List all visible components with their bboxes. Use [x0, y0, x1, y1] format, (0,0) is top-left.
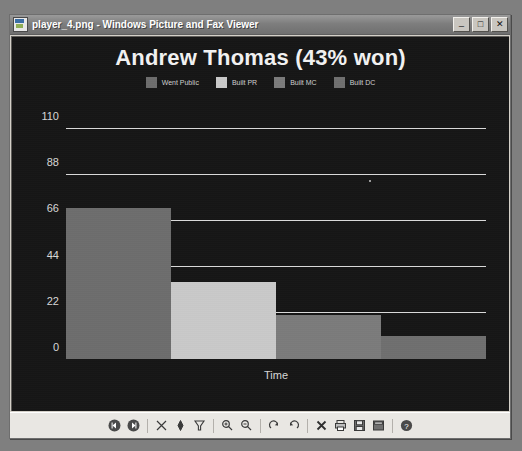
legend-swatch: [216, 77, 227, 88]
close-button[interactable]: ✕: [491, 17, 508, 32]
legend-label: Built DC: [350, 79, 376, 86]
bar: [171, 282, 276, 359]
legend-item: Built DC: [334, 77, 376, 88]
actual-size-button[interactable]: [172, 417, 189, 434]
toolbar-separator: [392, 419, 393, 433]
bar: [276, 315, 381, 359]
y-axis-tick-label: 44: [47, 249, 59, 261]
minimize-icon: _: [454, 18, 469, 31]
maximize-icon: □: [473, 18, 488, 31]
rotate-counterclockwise-button[interactable]: [285, 417, 302, 434]
legend-label: Went Public: [162, 79, 199, 86]
legend-label: Built PR: [232, 79, 257, 86]
toolbar-separator: [147, 419, 148, 433]
resize-grip[interactable]: [497, 425, 509, 437]
legend-item: Went Public: [146, 77, 199, 88]
y-axis-tick-label: 66: [47, 202, 59, 214]
close-icon: ✕: [492, 18, 507, 31]
y-axis-tick-label: 22: [47, 295, 59, 307]
edit-button[interactable]: [370, 417, 387, 434]
viewer-toolbar: ?: [10, 412, 510, 438]
legend-swatch: [146, 77, 157, 88]
chart-legend: Went PublicBuilt PRBuilt MCBuilt DC: [12, 77, 509, 88]
image-viewer-canvas[interactable]: Andrew Thomas (43% won) Went PublicBuilt…: [11, 36, 509, 411]
zoom-in-button[interactable]: [219, 417, 236, 434]
picture-and-fax-viewer-window: player_4.png - Windows Picture and Fax V…: [9, 14, 511, 439]
x-axis-label: Time: [66, 369, 486, 381]
previous-image-button[interactable]: [106, 417, 123, 434]
plot-area: 022446688110 Time: [66, 129, 486, 359]
y-axis-tick-label: 110: [41, 110, 59, 122]
minimize-button[interactable]: _: [453, 17, 470, 32]
maximize-button[interactable]: □: [472, 17, 489, 32]
legend-item: Built PR: [216, 77, 257, 88]
legend-item: Built MC: [274, 77, 316, 88]
zoom-out-button[interactable]: [238, 417, 255, 434]
image-file-icon: [13, 17, 28, 32]
best-fit-button[interactable]: [153, 417, 170, 434]
next-image-button[interactable]: [125, 417, 142, 434]
legend-swatch: [334, 77, 345, 88]
delete-button[interactable]: [313, 417, 330, 434]
copy-to-button[interactable]: [351, 417, 368, 434]
y-axis-tick-label: 0: [53, 341, 59, 353]
legend-swatch: [274, 77, 285, 88]
stray-pixel-artifact: [369, 180, 371, 182]
svg-text:?: ?: [404, 422, 409, 431]
rotate-clockwise-button[interactable]: [266, 417, 283, 434]
toolbar-separator: [307, 419, 308, 433]
toolbar-separator: [260, 419, 261, 433]
window-title-bar[interactable]: player_4.png - Windows Picture and Fax V…: [10, 15, 510, 35]
print-button[interactable]: [332, 417, 349, 434]
bar-chart: Andrew Thomas (43% won) Went PublicBuilt…: [12, 37, 509, 411]
y-axis-tick-label: 88: [47, 156, 59, 168]
window-title: player_4.png - Windows Picture and Fax V…: [32, 19, 451, 30]
help-button[interactable]: ?: [398, 417, 415, 434]
chart-title: Andrew Thomas (43% won): [12, 45, 509, 71]
desktop-background: player_4.png - Windows Picture and Fax V…: [0, 0, 522, 451]
bar: [66, 208, 171, 359]
toolbar-separator: [213, 419, 214, 433]
start-slide-show-button[interactable]: [191, 417, 208, 434]
bar: [381, 336, 486, 359]
legend-label: Built MC: [290, 79, 316, 86]
bar-series: [66, 129, 486, 359]
